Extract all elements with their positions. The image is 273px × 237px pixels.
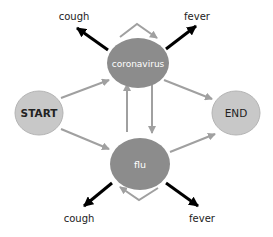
arrow-start-to-flu — [61, 129, 109, 149]
node-end-label: END — [225, 107, 248, 119]
diagram-canvas: START coronavirus flu END cough fever co… — [0, 0, 273, 237]
arrow-coronavirus-to-cough — [77, 28, 108, 50]
node-coronavirus-label: coronavirus — [112, 59, 165, 69]
node-flu-label: flu — [134, 159, 146, 170]
arrow-coronavirus-to-end — [164, 80, 212, 99]
observation-fever-bottom: fever — [189, 213, 216, 224]
node-end[interactable]: END — [212, 91, 260, 135]
self-loop-coronavirus — [120, 24, 157, 38]
node-start[interactable]: START — [15, 91, 63, 135]
node-coronavirus[interactable]: coronavirus — [107, 38, 169, 88]
arrow-flu-to-end — [170, 134, 215, 152]
arrow-flu-to-fever — [166, 183, 198, 206]
observation-cough-top: cough — [59, 11, 90, 22]
arrow-start-to-coronavirus — [61, 80, 109, 98]
arrow-flu-to-cough — [84, 183, 112, 206]
hmm-diagram: START coronavirus flu END cough fever co… — [0, 0, 273, 237]
observation-fever-top: fever — [184, 11, 211, 22]
node-flu[interactable]: flu — [110, 138, 170, 190]
observation-cough-bottom: cough — [64, 213, 95, 224]
node-start-label: START — [21, 107, 59, 119]
arrow-coronavirus-to-fever — [166, 26, 196, 49]
